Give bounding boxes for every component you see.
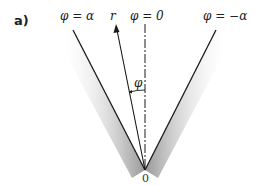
left-boundary-line bbox=[73, 30, 145, 170]
right-boundary-line bbox=[145, 30, 216, 170]
label-origin: 0 bbox=[142, 173, 149, 184]
label-phi-equals-alpha: φ = α bbox=[60, 10, 94, 22]
panel-label: a) bbox=[14, 14, 29, 27]
r-arrowhead-icon bbox=[114, 24, 120, 33]
label-phi-angle: φ bbox=[134, 77, 142, 89]
label-r: r bbox=[110, 10, 116, 22]
wedge-diagram bbox=[0, 0, 259, 186]
label-phi-equals-minus-alpha: φ = −α bbox=[203, 10, 247, 22]
label-phi-equals-zero: φ = 0 bbox=[130, 10, 164, 22]
right-wall-shading bbox=[145, 30, 231, 178]
